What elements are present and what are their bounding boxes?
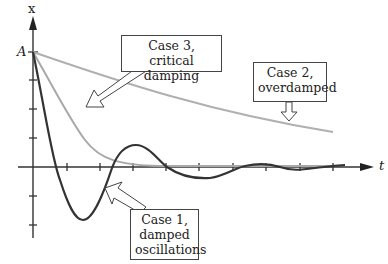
case1-line2: damped: [135, 227, 194, 242]
case3-line1: Case 3,: [126, 38, 217, 53]
y-axis-label: x: [28, 1, 35, 16]
case3-callout: Case 3, critical damping: [121, 35, 222, 72]
case2-line2: overdamped: [258, 80, 322, 95]
y-axis-arrow-icon: [29, 16, 37, 30]
case2-arrow-icon: [281, 102, 297, 121]
case2-callout: Case 2, overdamped: [253, 62, 327, 102]
amplitude-label: A: [17, 44, 26, 59]
case2-line1: Case 2,: [258, 65, 322, 80]
case3-line2: critical damping: [126, 53, 217, 83]
x-axis-label: t: [379, 158, 384, 173]
case1-line1: Case 1,: [135, 212, 194, 227]
x-axis-arrow-icon: [360, 163, 374, 171]
case1-callout: Case 1, damped oscillations: [130, 209, 199, 260]
case1-line3: oscillations: [135, 242, 194, 257]
